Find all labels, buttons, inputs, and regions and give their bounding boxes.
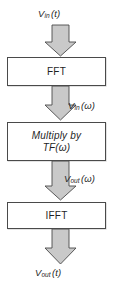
down-arrow-icon-4 — [45, 229, 76, 264]
label-output-freq-subscript: out — [70, 177, 79, 184]
block-multiply-line2-symbol: TF — [43, 142, 56, 153]
block-fft-label: FFT — [47, 66, 66, 78]
label-input-freq-subscript: in — [74, 104, 79, 111]
label-input-time-argument: (t) — [51, 8, 60, 19]
fft-signal-flow-diagram: Vin(t) FFT Vin(ω) Multiply by TF(ω) Vout… — [0, 0, 123, 288]
label-input-freq-argument: (ω) — [81, 100, 95, 111]
block-multiply-label: Multiply by TF(ω) — [32, 130, 81, 154]
label-output-freq-argument: (ω) — [81, 173, 95, 184]
block-multiply-line2-argument: (ω) — [55, 142, 70, 153]
block-multiply: Multiply by TF(ω) — [7, 122, 106, 161]
block-ifft-label: IFFT — [46, 210, 68, 222]
label-input-freq: Vin(ω) — [68, 101, 95, 112]
label-output-freq: Vout(ω) — [64, 174, 95, 185]
label-input-time: Vin(t) — [38, 9, 60, 20]
down-arrow-icon-1 — [45, 25, 76, 56]
label-output-time-subscript: out — [41, 271, 50, 278]
label-output-time-argument: (t) — [52, 267, 61, 278]
block-multiply-line1: Multiply by — [32, 130, 81, 141]
label-input-time-subscript: in — [44, 12, 49, 19]
block-fft: FFT — [7, 57, 106, 86]
label-output-time: Vout(t) — [35, 268, 61, 279]
block-ifft: IFFT — [7, 202, 106, 229]
